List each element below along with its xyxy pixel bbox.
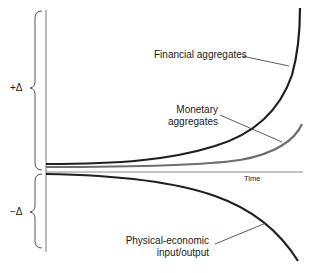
physical-economic-label-2: input/output [157,247,209,258]
monetary-leader-line [220,115,282,142]
financial-aggregates-label: Financial aggregates [154,49,247,60]
plus-delta-brace [30,11,42,170]
monetary-aggregates-curve [46,124,302,167]
monetary-aggregates-label-2: aggregates [168,116,218,127]
plus-delta-label: +Δ [10,82,23,93]
monetary-aggregates-label-1: Monetary [176,104,218,115]
financial-aggregates-curve [46,8,300,164]
financial-leader-line [242,56,289,66]
physical-economic-label-1: Physical-economic [126,235,209,246]
minus-delta-label: −Δ [10,206,23,217]
time-axis-label: Time [244,174,260,183]
triple-curve-chart: +Δ −Δ Financial aggregates Monetary aggr… [0,0,313,273]
physical-leader-line [215,223,266,244]
minus-delta-brace [30,174,42,248]
